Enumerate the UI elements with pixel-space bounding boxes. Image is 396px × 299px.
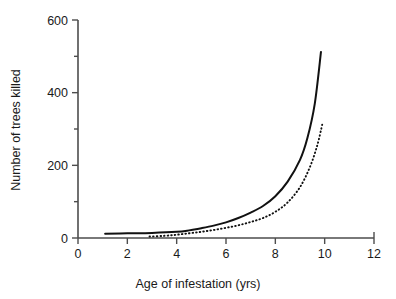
- x-axis-tick-label: 4: [173, 247, 180, 261]
- y-axis-title: Number of trees killed: [9, 69, 23, 191]
- x-axis-title: Age of infestation (yrs): [135, 277, 260, 291]
- trees-killed-vs-infestation-age-chart: 0200400600 024681012 Age of infestation …: [0, 0, 396, 299]
- x-axis-tick-label: 12: [367, 247, 381, 261]
- x-axis-tick-label: 6: [223, 247, 230, 261]
- x-axis-tick-label: 0: [75, 247, 82, 261]
- chart-container: 0200400600 024681012 Age of infestation …: [0, 0, 396, 299]
- y-axis-tick-label: 200: [47, 159, 68, 173]
- y-axis-tick-label: 400: [47, 86, 68, 100]
- x-axis-tick-label: 8: [272, 247, 279, 261]
- chart-background: [0, 0, 396, 299]
- x-axis-tick-label: 10: [318, 247, 332, 261]
- x-axis-tick-label: 2: [124, 247, 131, 261]
- y-axis-tick-label: 600: [47, 14, 68, 28]
- y-axis-tick-label: 0: [61, 232, 68, 246]
